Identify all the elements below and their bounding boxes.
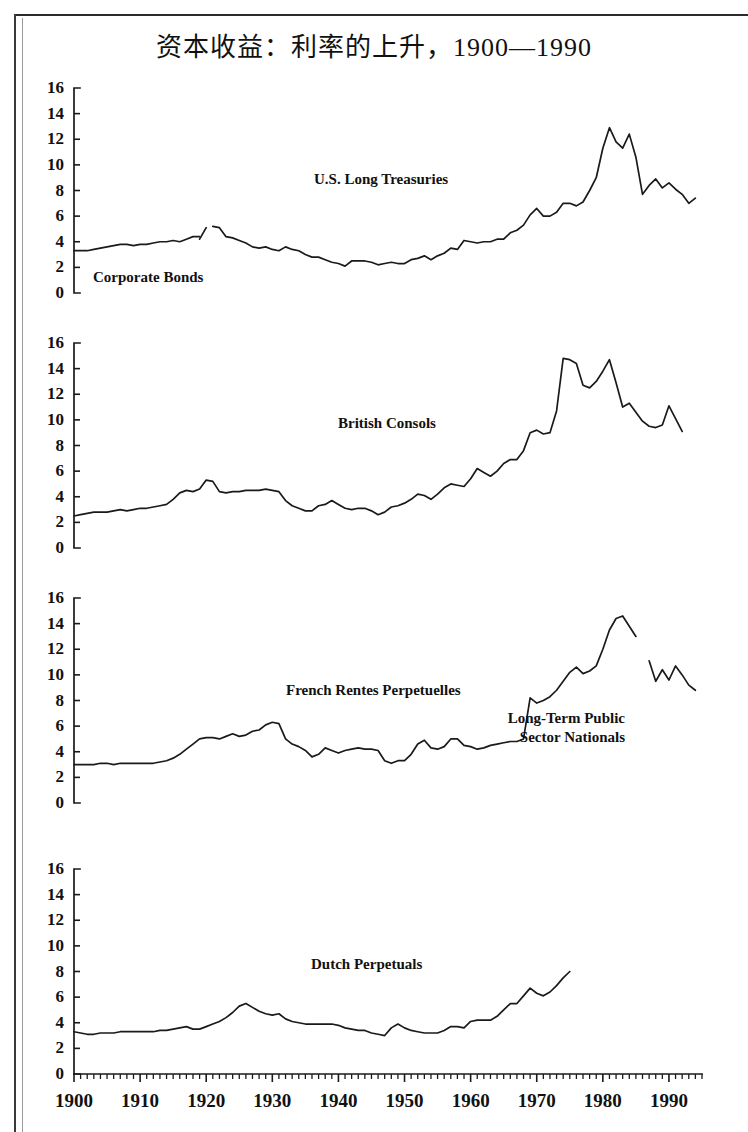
y-axis-line <box>74 343 80 548</box>
y-axis-tick-label: 10 <box>30 666 64 683</box>
y-axis-tick-label: 12 <box>30 911 64 928</box>
y-axis-tick-label: 12 <box>30 130 64 147</box>
series-line <box>649 661 695 690</box>
y-axis-tick-label: 16 <box>30 334 64 351</box>
y-axis-tick-label: 0 <box>30 1065 64 1082</box>
series-annotation-label: U.S. Long Treasuries <box>314 170 448 189</box>
x-axis-tick-label: 1960 <box>436 1091 506 1110</box>
series-annotation-label: British Consols <box>338 414 436 433</box>
y-axis-tick-label: 12 <box>30 640 64 657</box>
series-line <box>74 237 200 251</box>
y-axis-tick-label: 0 <box>30 539 64 556</box>
y-axis-tick-label: 2 <box>30 1039 64 1056</box>
y-axis-tick-label: 8 <box>30 963 64 980</box>
y-axis-tick-label: 6 <box>30 207 64 224</box>
page-border-top-rule <box>14 14 748 16</box>
y-axis-tick-label: 2 <box>30 258 64 275</box>
page-title: 资本收益：利率的上升，1900—1990 <box>0 26 748 63</box>
series-annotation-label: Long-Term Public Sector Nationals <box>495 709 625 747</box>
y-axis-tick-label: 14 <box>30 886 64 903</box>
y-axis-tick-label: 8 <box>30 182 64 199</box>
y-axis-tick-label: 0 <box>30 794 64 811</box>
y-axis-tick-label: 4 <box>30 743 64 760</box>
x-axis-tick-label: 1900 <box>39 1091 109 1110</box>
y-axis-tick-label: 12 <box>30 385 64 402</box>
series-annotation-label: Corporate Bonds <box>93 268 203 287</box>
y-axis-tick-label: 14 <box>30 615 64 632</box>
y-axis-tick-label: 16 <box>30 79 64 96</box>
y-axis-tick-label: 14 <box>30 360 64 377</box>
x-axis-tick-label: 1950 <box>370 1091 440 1110</box>
y-axis-tick-label: 8 <box>30 437 64 454</box>
y-axis-tick-label: 2 <box>30 513 64 530</box>
y-axis-tick-label: 10 <box>30 411 64 428</box>
series-annotation-label: Dutch Perpetuals <box>311 955 422 974</box>
x-axis-tick-label: 1990 <box>634 1091 704 1110</box>
y-axis-tick-label: 6 <box>30 462 64 479</box>
x-axis-tick-label: 1940 <box>303 1091 373 1110</box>
x-axis-tick-label: 1910 <box>105 1091 175 1110</box>
series-line <box>213 128 696 266</box>
series-line <box>74 972 570 1036</box>
x-axis-tick-label: 1930 <box>237 1091 307 1110</box>
y-axis-tick-label: 4 <box>30 233 64 250</box>
y-axis-tick-label: 4 <box>30 488 64 505</box>
y-axis-tick-label: 2 <box>30 768 64 785</box>
series-annotation-label: French Rentes Perpetuelles <box>286 681 461 700</box>
y-axis-line <box>74 869 80 1074</box>
y-axis-tick-label: 0 <box>30 284 64 301</box>
y-axis-tick-label: 6 <box>30 717 64 734</box>
y-axis-line <box>74 88 80 293</box>
page-border-left-rule <box>14 14 16 1132</box>
x-axis-tick-label: 1970 <box>502 1091 572 1110</box>
y-axis-tick-label: 10 <box>30 156 64 173</box>
y-axis-tick-label: 14 <box>30 105 64 122</box>
x-axis-tick-label: 1920 <box>171 1091 241 1110</box>
y-axis-tick-label: 16 <box>30 860 64 877</box>
series-line <box>200 228 207 240</box>
figure-page: 资本收益：利率的上升，1900—1990 1614121086420U.S. L… <box>0 0 748 1132</box>
y-axis-tick-label: 16 <box>30 589 64 606</box>
y-axis-tick-label: 6 <box>30 988 64 1005</box>
series-line <box>74 358 682 516</box>
y-axis-tick-label: 10 <box>30 937 64 954</box>
y-axis-tick-label: 8 <box>30 692 64 709</box>
page-border-left-inner-rule <box>22 18 23 1132</box>
x-axis-tick-label: 1980 <box>568 1091 638 1110</box>
y-axis-line <box>74 598 80 803</box>
y-axis-tick-label: 4 <box>30 1014 64 1031</box>
